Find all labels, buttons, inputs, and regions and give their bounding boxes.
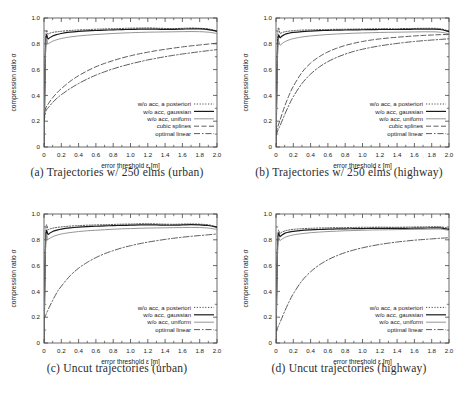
legend-label: w/o acc, a posteriori xyxy=(369,101,423,107)
y-tick-label: 0.2 xyxy=(263,313,272,320)
x-tick-label: 1.8 xyxy=(195,347,204,354)
x-tick-label: 1.4 xyxy=(161,151,170,158)
x-tick-label: 0.8 xyxy=(341,151,350,158)
x-tick-label: 0.2 xyxy=(57,347,66,354)
panel-d: 00.20.40.60.81.01.21.41.61.82.000.20.40.… xyxy=(232,196,466,394)
x-tick-label: 1.4 xyxy=(393,151,402,158)
x-tick-label: 1.0 xyxy=(126,151,135,158)
x-tick-label: 1.6 xyxy=(178,347,187,354)
x-tick-label: 2.0 xyxy=(445,151,454,158)
x-tick-label: 1.2 xyxy=(143,347,152,354)
y-tick-label: 0 xyxy=(37,143,41,150)
legend-label: w/o acc, gaussian xyxy=(374,312,423,318)
y-tick-label: 0.4 xyxy=(31,288,40,295)
x-tick-label: 1.0 xyxy=(358,151,367,158)
x-tick-label: 2.0 xyxy=(213,151,222,158)
legend-label: w/o acc, a posteriori xyxy=(137,101,191,107)
legend-label: w/o acc, gaussian xyxy=(142,109,191,115)
x-tick-label: 1.0 xyxy=(358,347,367,354)
x-tick-label: 1.2 xyxy=(375,347,384,354)
x-tick-label: 0 xyxy=(274,151,278,158)
x-tick-label: 1.4 xyxy=(161,347,170,354)
x-tick-label: 0 xyxy=(42,347,46,354)
y-tick-label: 0 xyxy=(37,339,41,346)
y-tick-label: 0.8 xyxy=(263,40,272,47)
x-tick-label: 0.4 xyxy=(306,347,315,354)
figure-compression-ratio-grid: 00.20.40.60.81.01.21.41.61.82.000.20.40.… xyxy=(0,0,469,397)
legend-label: w/o acc, uniform xyxy=(378,116,423,122)
y-axis-label: compression ratio σ xyxy=(242,250,250,308)
y-tick-label: 0.8 xyxy=(31,236,40,243)
caption-c: (c) Uncut trajectories (urban) xyxy=(0,362,234,374)
x-tick-label: 2.0 xyxy=(445,347,454,354)
y-axis-label: compression ratio σ xyxy=(10,250,18,308)
x-tick-label: 1.6 xyxy=(178,151,187,158)
x-tick-label: 1.4 xyxy=(393,347,402,354)
chart-svg-b: 00.20.40.60.81.01.21.41.61.82.000.20.40.… xyxy=(232,0,466,170)
y-tick-label: 0.6 xyxy=(263,66,272,73)
y-tick-label: 0 xyxy=(269,143,273,150)
y-tick-label: 0.8 xyxy=(31,40,40,47)
x-tick-label: 1.0 xyxy=(126,347,135,354)
x-tick-label: 0 xyxy=(42,151,46,158)
x-tick-label: 1.2 xyxy=(375,151,384,158)
panel-c: 00.20.40.60.81.01.21.41.61.82.000.20.40.… xyxy=(0,196,234,394)
x-tick-label: 1.8 xyxy=(195,151,204,158)
x-tick-label: 0 xyxy=(274,347,278,354)
x-tick-label: 0.4 xyxy=(306,151,315,158)
y-axis-label: compression ratio σ xyxy=(10,54,18,112)
panel-a: 00.20.40.60.81.01.21.41.61.82.000.20.40.… xyxy=(0,0,234,198)
x-tick-label: 0.8 xyxy=(109,347,118,354)
chart-svg-a: 00.20.40.60.81.01.21.41.61.82.000.20.40.… xyxy=(0,0,234,170)
y-tick-label: 0.6 xyxy=(263,262,272,269)
x-tick-label: 0.8 xyxy=(341,347,350,354)
legend-label: optimal linear xyxy=(387,131,423,137)
legend-label: w/o acc, a posteriori xyxy=(137,305,191,311)
legend-label: w/o acc, gaussian xyxy=(374,109,423,115)
x-tick-label: 0.4 xyxy=(74,151,83,158)
y-axis-label: compression ratio σ xyxy=(242,54,250,112)
x-tick-label: 0.2 xyxy=(289,347,298,354)
y-tick-label: 0.8 xyxy=(263,236,272,243)
x-tick-label: 0.8 xyxy=(109,151,118,158)
y-tick-label: 0 xyxy=(269,339,273,346)
x-tick-label: 0.2 xyxy=(57,151,66,158)
y-tick-label: 1.0 xyxy=(31,14,40,21)
y-tick-label: 0.4 xyxy=(31,92,40,99)
x-tick-label: 1.2 xyxy=(143,151,152,158)
y-tick-label: 0.6 xyxy=(31,262,40,269)
y-tick-label: 1.0 xyxy=(31,210,40,217)
x-tick-label: 1.8 xyxy=(427,151,436,158)
y-tick-label: 1.0 xyxy=(263,210,272,217)
y-tick-label: 0.4 xyxy=(263,288,272,295)
legend-label: w/o acc, a posteriori xyxy=(369,305,423,311)
plot-d: 00.20.40.60.81.01.21.41.61.82.000.20.40.… xyxy=(232,196,466,366)
legend-label: cubic splines xyxy=(389,123,423,129)
y-tick-label: 0.2 xyxy=(31,313,40,320)
plot-c: 00.20.40.60.81.01.21.41.61.82.000.20.40.… xyxy=(0,196,234,366)
x-tick-label: 1.8 xyxy=(427,347,436,354)
x-tick-label: 0.2 xyxy=(289,151,298,158)
y-tick-label: 0.6 xyxy=(31,66,40,73)
x-tick-label: 0.4 xyxy=(74,347,83,354)
x-tick-label: 0.6 xyxy=(92,151,101,158)
legend-label: w/o acc, uniform xyxy=(146,319,191,325)
chart-svg-d: 00.20.40.60.81.01.21.41.61.82.000.20.40.… xyxy=(232,196,466,366)
caption-d: (d) Uncut trajectories (highway) xyxy=(232,362,466,374)
caption-b: (b) Trajectories w/ 250 elms (highway) xyxy=(232,166,466,178)
plot-b: 00.20.40.60.81.01.21.41.61.82.000.20.40.… xyxy=(232,0,466,170)
x-tick-label: 0.6 xyxy=(324,151,333,158)
y-tick-label: 0.2 xyxy=(263,117,272,124)
legend-label: optimal linear xyxy=(155,131,191,137)
x-tick-label: 0.6 xyxy=(92,347,101,354)
legend-label: optimal linear xyxy=(155,327,191,333)
panel-b: 00.20.40.60.81.01.21.41.61.82.000.20.40.… xyxy=(232,0,466,198)
x-tick-label: 0.6 xyxy=(324,347,333,354)
x-tick-label: 1.6 xyxy=(410,151,419,158)
legend-label: w/o acc, uniform xyxy=(378,319,423,325)
y-tick-label: 0.2 xyxy=(31,117,40,124)
legend-label: w/o acc, gaussian xyxy=(142,312,191,318)
chart-svg-c: 00.20.40.60.81.01.21.41.61.82.000.20.40.… xyxy=(0,196,234,366)
caption-a: (a) Trajectories w/ 250 elms (urban) xyxy=(0,166,234,178)
x-tick-label: 2.0 xyxy=(213,347,222,354)
